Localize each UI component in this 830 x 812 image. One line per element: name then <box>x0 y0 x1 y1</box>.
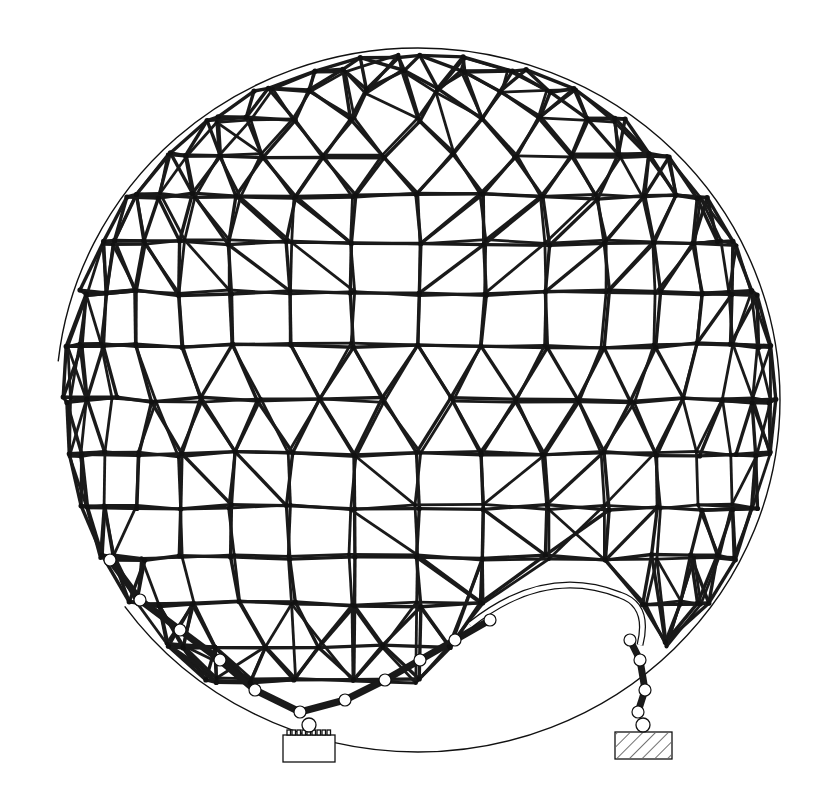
strut <box>654 344 697 345</box>
node <box>290 602 294 606</box>
ball-node <box>214 654 226 666</box>
node <box>613 120 617 124</box>
node <box>380 153 384 157</box>
node <box>215 676 219 680</box>
node <box>227 506 231 510</box>
node <box>351 679 355 683</box>
node <box>506 68 510 72</box>
node <box>692 556 696 560</box>
node <box>290 450 295 455</box>
node <box>515 154 519 158</box>
strut <box>453 401 481 451</box>
node <box>227 238 231 242</box>
ball-node <box>414 654 426 666</box>
strut <box>465 58 508 70</box>
node <box>292 196 296 200</box>
node <box>414 450 419 455</box>
node <box>628 399 633 404</box>
strut <box>722 344 733 399</box>
strut <box>702 509 733 510</box>
node <box>349 508 353 512</box>
node <box>543 453 547 457</box>
node <box>696 503 700 507</box>
strut <box>183 347 202 403</box>
node <box>396 53 400 57</box>
node <box>154 400 158 404</box>
node <box>271 87 275 91</box>
node <box>358 55 363 60</box>
strut <box>656 292 661 348</box>
node <box>260 152 264 156</box>
node <box>769 399 773 403</box>
node <box>78 342 82 346</box>
node <box>61 395 66 400</box>
strut <box>656 348 684 398</box>
strut <box>719 557 734 558</box>
node <box>127 599 132 604</box>
node <box>602 558 606 562</box>
strut <box>241 154 262 198</box>
node <box>179 451 184 456</box>
node <box>524 67 529 72</box>
strut <box>219 156 240 198</box>
node <box>69 396 73 400</box>
node <box>699 196 703 200</box>
node <box>417 676 422 681</box>
node <box>735 244 739 248</box>
node <box>227 288 231 292</box>
strut <box>266 647 296 679</box>
strut <box>419 245 484 294</box>
node <box>484 238 488 242</box>
strut <box>517 156 540 197</box>
node <box>177 455 181 459</box>
strut <box>356 158 384 196</box>
strut <box>549 559 605 560</box>
node <box>294 676 298 680</box>
node <box>180 555 184 559</box>
strut <box>736 403 752 455</box>
strut <box>579 348 601 402</box>
node <box>101 242 105 246</box>
strut <box>354 118 382 155</box>
node <box>259 397 263 401</box>
node <box>478 192 482 196</box>
strut <box>384 121 420 157</box>
node <box>347 552 351 556</box>
node <box>232 553 236 557</box>
node <box>607 507 612 512</box>
node <box>604 238 608 242</box>
node <box>192 601 196 605</box>
strut <box>420 194 480 244</box>
node <box>602 503 606 507</box>
node <box>111 243 115 247</box>
node <box>291 117 295 121</box>
strut <box>737 246 752 293</box>
node <box>348 291 353 296</box>
strut <box>136 194 145 244</box>
node <box>316 645 321 650</box>
strut <box>293 92 310 119</box>
node <box>732 555 736 559</box>
strut <box>698 505 719 557</box>
node <box>266 86 271 91</box>
node <box>350 603 354 607</box>
node <box>251 89 256 94</box>
node <box>481 558 485 562</box>
node <box>158 191 162 195</box>
node <box>264 645 268 649</box>
node <box>463 56 467 60</box>
node <box>480 116 484 120</box>
node <box>84 398 88 402</box>
node <box>349 241 353 245</box>
strut <box>683 399 697 452</box>
strut <box>545 195 596 244</box>
strut <box>382 118 417 155</box>
strut <box>683 344 697 399</box>
strut <box>320 343 351 399</box>
strut <box>156 402 179 457</box>
node <box>413 503 417 507</box>
node <box>286 554 290 558</box>
strut <box>356 402 384 456</box>
strut <box>547 452 604 505</box>
node <box>351 195 355 199</box>
